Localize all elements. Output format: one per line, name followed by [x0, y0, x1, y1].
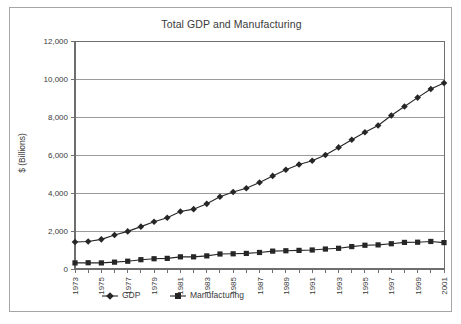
- x-tick-label: 1993: [335, 276, 344, 294]
- x-tick-label: 1973: [71, 276, 80, 294]
- data-point-gdp: [124, 228, 131, 235]
- legend-label-manufacturing[interactable]: Manufacturing: [190, 290, 244, 300]
- data-point-gdp: [217, 194, 224, 201]
- data-point-manufacturing: [310, 247, 315, 252]
- data-point-gdp: [230, 189, 237, 196]
- x-tick-label: 1991: [308, 276, 317, 294]
- y-tick-label: 8,000: [48, 113, 69, 122]
- data-point-gdp: [203, 201, 210, 208]
- data-point-manufacturing: [151, 256, 156, 261]
- x-tick-label: 1995: [361, 276, 370, 294]
- y-tick-label: 10,000: [44, 75, 69, 84]
- data-point-gdp: [190, 206, 197, 213]
- series-line-gdp: [75, 83, 444, 242]
- data-point-gdp: [335, 144, 342, 151]
- y-tick-label: 6,000: [48, 151, 69, 160]
- data-point-gdp: [309, 157, 316, 164]
- data-point-manufacturing: [72, 260, 77, 265]
- data-point-manufacturing: [99, 260, 104, 265]
- legend-label-gdp[interactable]: GDP: [122, 290, 141, 300]
- data-point-manufacturing: [244, 251, 249, 256]
- data-point-manufacturing: [336, 246, 341, 251]
- data-point-gdp: [151, 218, 158, 225]
- chart-container: Total GDP and Manufacturing $ (Billions)…: [9, 7, 452, 312]
- data-point-manufacturing: [323, 246, 328, 251]
- data-series: [72, 80, 448, 266]
- data-point-gdp: [111, 232, 118, 239]
- data-point-manufacturing: [257, 250, 262, 255]
- data-point-gdp: [362, 129, 369, 136]
- data-point-gdp: [428, 86, 435, 93]
- data-point-manufacturing: [270, 249, 275, 254]
- data-point-gdp: [441, 80, 448, 87]
- data-point-gdp: [401, 103, 408, 110]
- data-point-manufacturing: [112, 260, 117, 265]
- y-tick-label: 12,000: [44, 37, 69, 46]
- data-point-manufacturing: [296, 248, 301, 253]
- data-point-gdp: [256, 179, 263, 186]
- data-point-manufacturing: [125, 259, 130, 264]
- data-point-gdp: [322, 152, 329, 159]
- x-tick-label: 2001: [440, 276, 449, 294]
- data-point-manufacturing: [376, 242, 381, 247]
- data-point-gdp: [243, 185, 250, 192]
- data-point-manufacturing: [349, 244, 354, 249]
- data-point-gdp: [164, 214, 171, 221]
- data-point-gdp: [269, 173, 276, 180]
- x-tick-label: 1981: [176, 276, 185, 294]
- data-point-manufacturing: [231, 251, 236, 256]
- gridlines: [75, 41, 444, 231]
- data-point-manufacturing: [86, 260, 91, 265]
- data-point-manufacturing: [138, 257, 143, 262]
- data-point-manufacturing: [402, 240, 407, 245]
- data-point-gdp: [283, 167, 290, 174]
- data-point-gdp: [85, 238, 92, 245]
- y-tick-label: 0: [64, 265, 69, 274]
- data-point-manufacturing: [217, 251, 222, 256]
- y-axis-ticks: 02,0004,0006,0008,00010,00012,000: [44, 37, 75, 274]
- data-point-manufacturing: [178, 254, 183, 259]
- plot-svg: 02,0004,0006,0008,00010,00012,000 197319…: [10, 8, 453, 313]
- data-point-gdp: [296, 161, 303, 168]
- x-tick-label: 1987: [256, 276, 265, 294]
- data-point-manufacturing: [191, 254, 196, 259]
- data-point-manufacturing: [165, 256, 170, 261]
- data-point-manufacturing: [441, 240, 446, 245]
- y-tick-label: 2,000: [48, 227, 69, 236]
- data-point-manufacturing: [362, 243, 367, 248]
- chart-legend[interactable]: GDPManufacturing: [102, 290, 244, 300]
- data-point-manufacturing: [389, 241, 394, 246]
- data-point-manufacturing: [428, 239, 433, 244]
- data-point-manufacturing: [204, 253, 209, 258]
- data-point-gdp: [177, 208, 184, 215]
- x-tick-label: 1999: [414, 276, 423, 294]
- data-point-gdp: [414, 94, 421, 101]
- data-point-gdp: [98, 236, 105, 243]
- data-point-manufacturing: [415, 240, 420, 245]
- data-point-gdp: [348, 137, 355, 144]
- data-point-gdp: [138, 223, 145, 230]
- x-tick-label: 1979: [150, 276, 159, 294]
- y-tick-label: 4,000: [48, 189, 69, 198]
- x-tick-label: 1975: [97, 276, 106, 294]
- x-tick-label: 1989: [282, 276, 291, 294]
- data-point-gdp: [72, 239, 79, 246]
- data-point-manufacturing: [283, 248, 288, 253]
- x-tick-label: 1997: [387, 276, 396, 294]
